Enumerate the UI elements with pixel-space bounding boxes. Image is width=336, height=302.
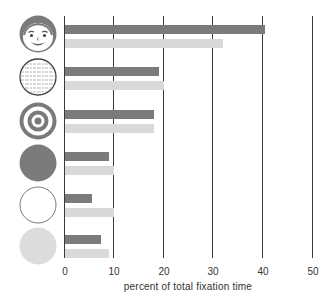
bar-dark-circle-light: [65, 166, 115, 175]
bar-text-light: [65, 81, 164, 90]
gridline-40: [262, 16, 263, 258]
x-axis-label: percent of total fixation time: [64, 281, 312, 292]
target-icon: [19, 102, 57, 140]
bar-face-light: [65, 39, 223, 48]
text-block-circle-icon: [19, 58, 57, 96]
fixation-time-chart: 0 10 20 30 40 50 percent of total fixati…: [0, 0, 336, 302]
tick-label-50: 50: [301, 266, 325, 277]
face-icon: [19, 15, 57, 53]
bar-text-dark: [65, 67, 159, 76]
tick-label-30: 30: [201, 266, 225, 277]
tick-label-20: 20: [152, 266, 176, 277]
gridline-0: [64, 16, 65, 258]
bar-white-circle-dark: [65, 194, 92, 203]
bar-face-dark: [65, 25, 265, 34]
bar-dark-circle-dark: [65, 152, 110, 161]
bar-light-circle-light: [65, 249, 110, 258]
tick-label-40: 40: [251, 266, 275, 277]
bar-white-circle-light: [65, 208, 115, 217]
white-circle-icon: [19, 186, 57, 224]
gridline-20: [163, 16, 164, 258]
bar-target-dark: [65, 110, 154, 119]
gridline-30: [212, 16, 213, 258]
gridline-10: [113, 16, 114, 258]
light-gray-circle-icon: [19, 227, 57, 265]
tick-label-0: 0: [53, 266, 77, 277]
gridline-50: [312, 16, 313, 258]
dark-gray-circle-icon: [19, 144, 57, 182]
bar-target-light: [65, 124, 154, 133]
tick-label-10: 10: [102, 266, 126, 277]
bar-light-circle-dark: [65, 235, 101, 244]
